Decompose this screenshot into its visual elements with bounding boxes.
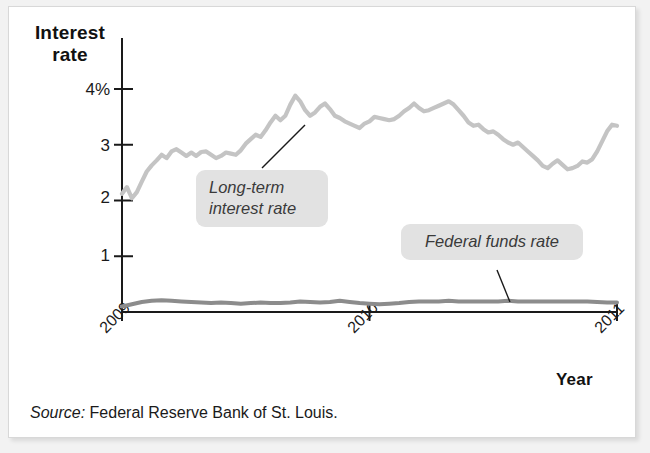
axes-group bbox=[114, 38, 618, 321]
annotation-long-term-interest-rate: Long-term interest rate bbox=[196, 170, 328, 227]
y-axis-ticks bbox=[114, 89, 133, 256]
annotation-long-term-line-1: Long-term bbox=[209, 177, 315, 198]
annotation-leader-line-federal-funds bbox=[497, 270, 510, 302]
annotation-federal-funds-rate: Federal funds rate bbox=[401, 224, 583, 260]
annotation-long-term-line-2: interest rate bbox=[209, 198, 315, 219]
series-line-federal-funds-rate bbox=[122, 300, 617, 306]
figure-container: Interest rate Year 4% 3 2 1 2009 2010 20… bbox=[0, 0, 650, 453]
source-note: Source: Federal Reserve Bank of St. Loui… bbox=[30, 404, 338, 422]
source-label: Source: bbox=[30, 404, 85, 421]
source-text: Federal Reserve Bank of St. Louis. bbox=[85, 404, 338, 421]
annotation-leader-line-long-term bbox=[262, 125, 305, 168]
